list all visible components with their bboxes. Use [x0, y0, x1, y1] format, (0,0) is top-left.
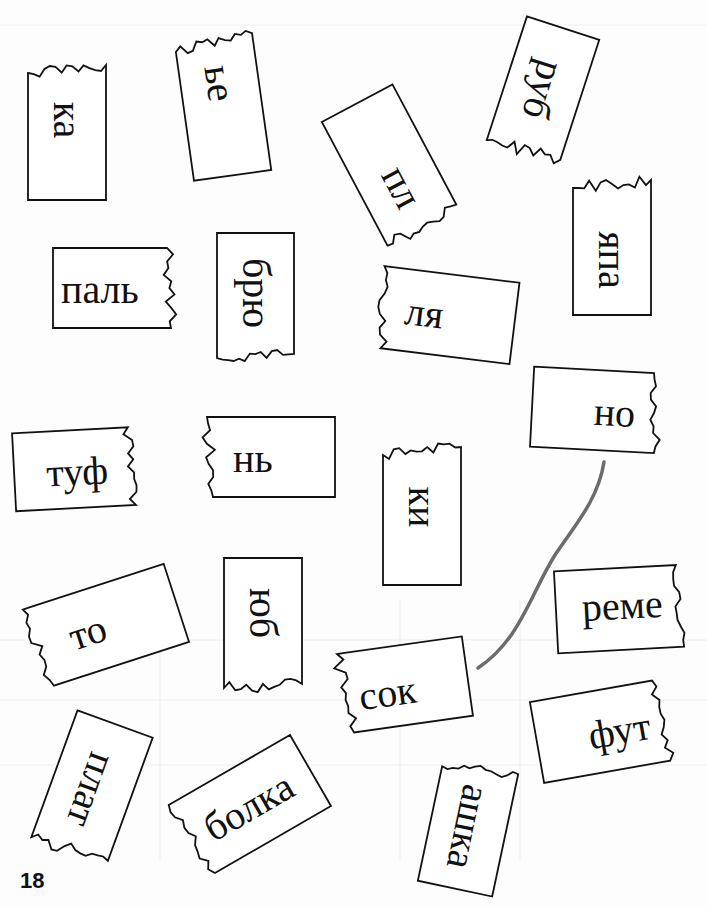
- word-card-plat[interactable]: плат: [31, 710, 152, 864]
- word-card-fut[interactable]: фут: [530, 679, 674, 783]
- word-card-bolka[interactable]: болка: [167, 735, 331, 877]
- word-card-to[interactable]: то: [21, 564, 189, 688]
- word-card-pl[interactable]: пл: [322, 84, 458, 245]
- word-card-bryu[interactable]: брю: [217, 233, 294, 358]
- word-card-lya[interactable]: ля: [373, 266, 520, 364]
- word-fragment-text: нь: [233, 439, 273, 479]
- word-card-sok[interactable]: сок: [335, 636, 473, 733]
- word-fragment-text: сок: [356, 670, 418, 718]
- word-fragment-text: ка: [47, 102, 87, 139]
- word-fragment-text: ье: [197, 63, 242, 104]
- word-fragment-text: паль: [61, 270, 139, 310]
- word-card-be[interactable]: ье: [175, 33, 271, 181]
- word-fragment-text: ля: [403, 291, 446, 335]
- torn-paper-outline: [373, 266, 520, 364]
- word-card-yub[interactable]: юб: [224, 558, 302, 688]
- word-card-reme[interactable]: реме: [554, 565, 688, 654]
- word-card-yapa[interactable]: япа: [573, 180, 651, 315]
- word-card-ka[interactable]: ка: [28, 65, 106, 200]
- word-card-pal[interactable]: паль: [53, 248, 175, 328]
- torn-paper-outline: [322, 84, 458, 245]
- page-number: 18: [20, 868, 44, 894]
- word-fragment-text: фут: [585, 706, 653, 756]
- word-card-rub[interactable]: руб: [487, 16, 599, 163]
- word-fragment-text: юб: [243, 588, 283, 638]
- word-fragment-text: япа: [592, 231, 632, 289]
- word-fragment-text: туф: [45, 450, 109, 493]
- word-fragment-text: ки: [402, 487, 442, 528]
- word-fragment-text: но: [593, 392, 636, 434]
- word-card-tuf[interactable]: туф: [12, 427, 140, 511]
- word-card-ki[interactable]: ки: [383, 447, 461, 585]
- torn-paper-outline: [175, 33, 271, 181]
- worksheet-page: каьеплрубяпапальбрюлянотуфнькитоюбсокрем…: [0, 0, 707, 907]
- word-card-n[interactable]: нь: [205, 417, 335, 497]
- word-card-ashka[interactable]: ашка: [418, 758, 518, 896]
- word-card-no[interactable]: но: [530, 367, 662, 454]
- word-fragment-text: брю: [236, 258, 276, 328]
- word-fragment-text: реме: [581, 584, 664, 628]
